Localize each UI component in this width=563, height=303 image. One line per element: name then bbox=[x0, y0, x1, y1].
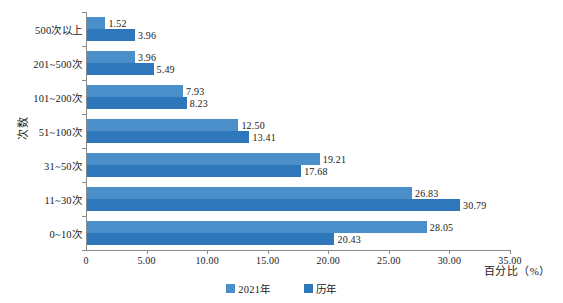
bar-chart: 次数 0~10次11~30次31~50次51~100次101~200次201~5… bbox=[0, 0, 563, 303]
legend-swatch-icon bbox=[304, 284, 313, 293]
bar-value-label: 26.83 bbox=[415, 188, 439, 199]
bar-历年 bbox=[87, 199, 460, 211]
bar-2021年 bbox=[87, 85, 183, 97]
x-axis-tick-label: 25.00 bbox=[377, 255, 401, 266]
bar-value-label: 28.05 bbox=[430, 222, 454, 233]
category-label: 31~50次 bbox=[10, 158, 82, 173]
bar-历年 bbox=[87, 131, 249, 143]
bar-value-label: 17.68 bbox=[304, 166, 328, 177]
x-axis-tick-label: 20.00 bbox=[317, 255, 341, 266]
bar-value-label: 19.21 bbox=[323, 154, 347, 165]
legend-item-历年[interactable]: 历年 bbox=[304, 281, 336, 296]
legend-item-2021年[interactable]: 2021年 bbox=[226, 281, 270, 296]
bar-2021年 bbox=[87, 119, 238, 131]
x-axis-line bbox=[86, 250, 510, 251]
x-axis-tick-label: 0 bbox=[83, 255, 88, 266]
legend-label: 历年 bbox=[316, 281, 336, 296]
y-axis-tick bbox=[82, 216, 86, 217]
bar-value-label: 30.79 bbox=[463, 200, 487, 211]
y-axis-tick bbox=[82, 182, 86, 183]
bar-历年 bbox=[87, 97, 187, 109]
bar-2021年 bbox=[87, 17, 105, 29]
bar-value-label: 13.41 bbox=[252, 132, 276, 143]
bar-2021年 bbox=[87, 187, 412, 199]
x-axis-tick bbox=[389, 250, 390, 254]
bar-历年 bbox=[87, 29, 135, 41]
x-axis-tick-label: 15.00 bbox=[256, 255, 280, 266]
x-axis-tick bbox=[510, 250, 511, 254]
legend-swatch-icon bbox=[226, 284, 235, 293]
bar-value-label: 7.93 bbox=[186, 86, 204, 97]
category-axis-labels: 0~10次11~30次31~50次51~100次101~200次201~500次… bbox=[10, 12, 82, 250]
x-axis-tick-label: 30.00 bbox=[438, 255, 462, 266]
bar-value-label: 8.23 bbox=[190, 98, 208, 109]
bar-历年 bbox=[87, 63, 154, 75]
category-label: 500次以上 bbox=[10, 22, 82, 37]
legend-label: 2021年 bbox=[238, 281, 270, 296]
y-axis-tick bbox=[82, 114, 86, 115]
x-axis-tick-label: 10.00 bbox=[195, 255, 219, 266]
bar-value-label: 5.49 bbox=[157, 64, 175, 75]
y-axis-tick bbox=[82, 46, 86, 47]
category-label: 101~200次 bbox=[10, 90, 82, 105]
category-label: 0~10次 bbox=[10, 226, 82, 241]
bar-历年 bbox=[87, 165, 301, 177]
x-axis-tick-label: 5.00 bbox=[137, 255, 155, 266]
category-label: 11~30次 bbox=[10, 192, 82, 207]
chart-legend: 2021年历年 bbox=[0, 281, 563, 296]
bar-value-label: 12.50 bbox=[241, 120, 265, 131]
y-axis-tick bbox=[82, 12, 86, 13]
x-axis-tick bbox=[147, 250, 148, 254]
bar-历年 bbox=[87, 233, 334, 245]
y-axis-tick bbox=[82, 250, 86, 251]
x-axis-tick bbox=[207, 250, 208, 254]
x-axis-tick bbox=[449, 250, 450, 254]
bar-2021年 bbox=[87, 153, 320, 165]
bar-value-label: 3.96 bbox=[138, 30, 156, 41]
bar-value-label: 1.52 bbox=[108, 18, 126, 29]
category-label: 201~500次 bbox=[10, 56, 82, 71]
bar-value-label: 20.43 bbox=[337, 234, 361, 245]
y-axis-tick bbox=[82, 148, 86, 149]
plot-area: 28.0520.4326.8330.7919.2117.6812.5013.41… bbox=[86, 12, 510, 250]
bar-2021年 bbox=[87, 221, 427, 233]
y-axis-tick bbox=[82, 80, 86, 81]
bar-2021年 bbox=[87, 51, 135, 63]
bar-value-label: 3.96 bbox=[138, 52, 156, 63]
x-axis-tick bbox=[268, 250, 269, 254]
x-axis-title: 百分比（%） bbox=[484, 262, 551, 278]
x-axis-tick bbox=[328, 250, 329, 254]
category-label: 51~100次 bbox=[10, 124, 82, 139]
